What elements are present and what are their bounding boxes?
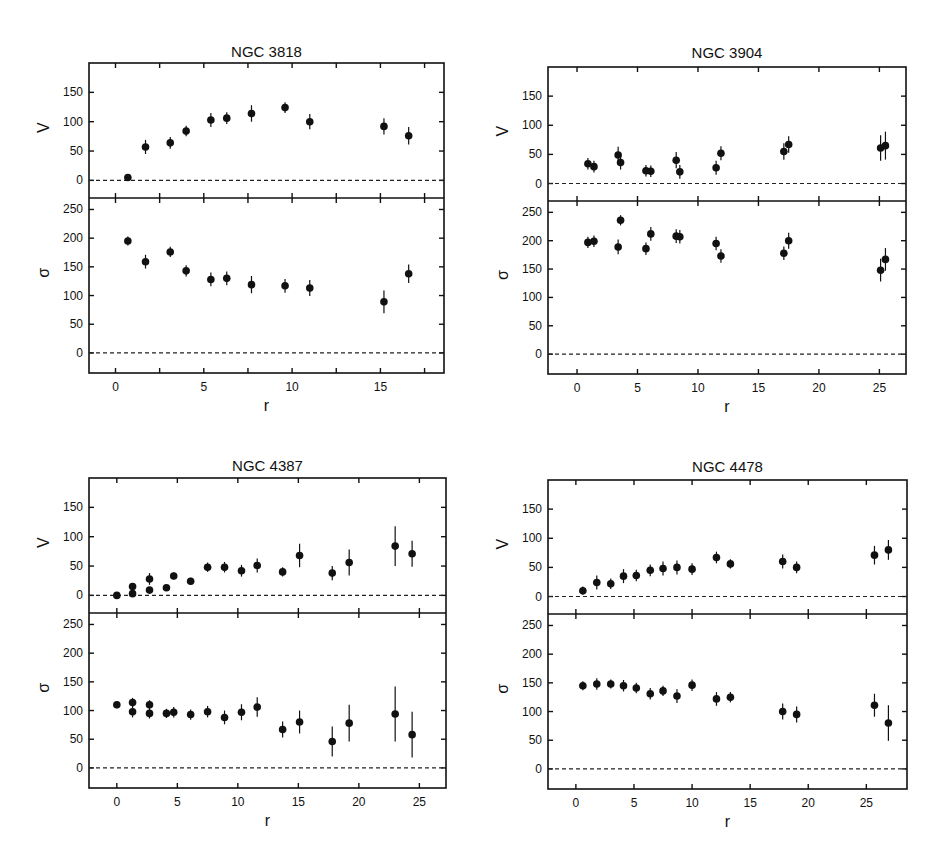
- y-tick-label: 100: [522, 290, 542, 304]
- y-tick-label: 100: [522, 705, 542, 719]
- data-point: [620, 572, 628, 580]
- data-point: [163, 710, 171, 718]
- y-tick-label: 250: [522, 618, 542, 632]
- data-point: [146, 575, 154, 583]
- plot-frame: [548, 480, 907, 789]
- y-tick-label: 50: [529, 147, 543, 161]
- data-point: [306, 118, 314, 126]
- y-tick-label: 100: [63, 530, 83, 544]
- data-point: [632, 572, 640, 580]
- data-point: [187, 578, 195, 586]
- data-point: [871, 551, 879, 559]
- data-point: [780, 249, 788, 257]
- data-point: [380, 298, 388, 306]
- plot-frame: [89, 63, 444, 373]
- x-tick-label: 25: [413, 795, 427, 809]
- data-point: [659, 687, 667, 695]
- data-point: [296, 552, 304, 560]
- data-point: [113, 592, 121, 600]
- data-point: [713, 554, 721, 562]
- y-axis-label: σ: [35, 683, 52, 693]
- figure-canvas: NGC 3818051015r050100150V050100150200250…: [0, 0, 945, 854]
- data-point: [646, 567, 654, 575]
- y-tick-label: 50: [529, 319, 543, 333]
- data-point: [170, 572, 178, 580]
- data-point: [170, 708, 178, 716]
- y-tick-label: 150: [522, 676, 542, 690]
- data-point: [607, 580, 615, 588]
- y-tick-label: 200: [522, 234, 542, 248]
- y-tick-label: 0: [535, 177, 542, 191]
- chart-title: NGC 4478: [692, 458, 763, 475]
- y-tick-label: 150: [63, 260, 83, 274]
- y-tick-label: 250: [63, 617, 83, 631]
- chart-ngc-4387: NGC 43870510152025r050100150V05010015020…: [35, 457, 446, 829]
- data-point: [129, 699, 137, 707]
- data-point: [688, 681, 696, 689]
- data-point: [727, 560, 735, 568]
- y-axis-label: V: [494, 126, 511, 137]
- y-tick-label: 150: [522, 89, 542, 103]
- y-axis-label: V: [35, 122, 52, 133]
- data-point: [590, 237, 598, 245]
- velocity-panel: 050100150V: [35, 500, 446, 602]
- data-point: [793, 564, 801, 572]
- y-tick-label: 200: [522, 647, 542, 661]
- data-point: [221, 714, 229, 722]
- data-point: [328, 569, 336, 577]
- y-tick-label: 50: [529, 560, 543, 574]
- data-point: [579, 682, 587, 690]
- y-tick-label: 200: [63, 646, 83, 660]
- data-point: [306, 284, 314, 292]
- chart-ngc-3818: NGC 3818051015r050100150V050100150200250…: [35, 43, 444, 414]
- chart-ngc-3904: NGC 39040510152025r050100150V05010015020…: [494, 44, 906, 415]
- data-point: [279, 568, 287, 576]
- data-point: [688, 565, 696, 573]
- x-axis-label: r: [725, 813, 731, 830]
- y-tick-label: 100: [522, 531, 542, 545]
- y-tick-label: 0: [76, 761, 83, 775]
- data-point: [129, 590, 137, 598]
- data-point: [882, 256, 890, 264]
- y-tick-label: 250: [63, 202, 83, 216]
- y-tick-label: 150: [63, 85, 83, 99]
- data-point: [146, 701, 154, 709]
- dispersion-panel: 050100150200250σ: [35, 617, 446, 774]
- data-point: [593, 680, 601, 688]
- y-tick-label: 0: [76, 588, 83, 602]
- dispersion-panel: 050100150200250σ: [494, 205, 906, 361]
- y-tick-label: 0: [535, 762, 542, 776]
- x-tick-label: 5: [200, 380, 207, 394]
- y-tick-label: 200: [63, 231, 83, 245]
- x-tick-label: 15: [743, 796, 757, 810]
- x-tick-label: 5: [634, 381, 641, 395]
- data-point: [712, 164, 720, 172]
- y-tick-label: 50: [70, 317, 84, 331]
- data-point: [124, 174, 132, 182]
- data-point: [593, 579, 601, 587]
- y-axis-label: V: [35, 537, 52, 548]
- chart-title: NGC 3818: [231, 43, 302, 60]
- y-tick-label: 0: [535, 590, 542, 604]
- data-point: [779, 558, 787, 566]
- data-point: [391, 542, 399, 550]
- data-point: [204, 708, 212, 716]
- data-point: [617, 159, 625, 167]
- data-point: [328, 738, 336, 746]
- x-tick-label: 15: [374, 380, 388, 394]
- data-point: [590, 163, 598, 171]
- data-point: [785, 141, 793, 149]
- dispersion-panel: 050100150200250σ: [494, 618, 907, 775]
- data-point: [712, 240, 720, 248]
- data-point: [646, 690, 654, 698]
- y-tick-label: 150: [63, 675, 83, 689]
- x-tick-label: 20: [352, 795, 366, 809]
- y-tick-label: 150: [522, 502, 542, 516]
- data-point: [345, 559, 353, 567]
- x-tick-label: 25: [860, 796, 874, 810]
- y-axis-label: σ: [35, 268, 52, 278]
- data-point: [142, 258, 150, 266]
- data-point: [238, 708, 246, 716]
- data-point: [182, 267, 190, 275]
- data-point: [408, 550, 416, 558]
